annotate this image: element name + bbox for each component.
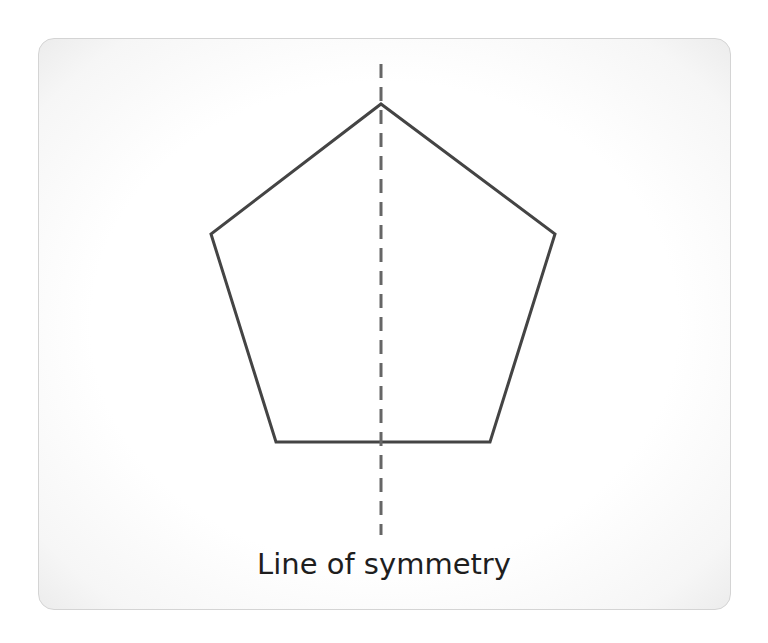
caption-label: Line of symmetry bbox=[0, 547, 768, 581]
pentagon-shape bbox=[211, 104, 555, 442]
